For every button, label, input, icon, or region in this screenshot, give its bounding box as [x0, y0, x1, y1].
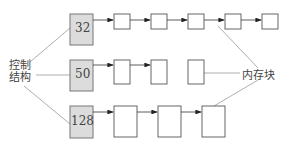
size-label-50: 50 [75, 67, 90, 81]
row-32-blocks [114, 14, 278, 29]
memory-pool-diagram: 32 50 128 控制 结构 内存块 [0, 0, 289, 147]
size-label-128: 128 [71, 114, 94, 128]
memory-block-label: 内存块 [242, 66, 275, 82]
control-structure-label: 控制 结构 [9, 60, 31, 84]
size-label-32: 32 [75, 21, 90, 35]
row-128-blocks [114, 106, 225, 137]
